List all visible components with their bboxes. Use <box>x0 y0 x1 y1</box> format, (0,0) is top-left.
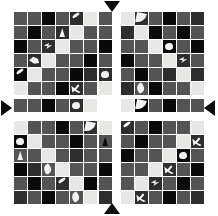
mosaic-cell <box>149 40 162 53</box>
mosaic-cell <box>163 121 176 134</box>
mosaic-cell <box>191 163 204 176</box>
mosaic-cell <box>177 163 190 176</box>
mosaic-cell <box>42 26 55 39</box>
fragment-petal-icon <box>136 82 146 94</box>
mosaic-cell <box>149 191 162 204</box>
mosaic-cell <box>99 135 112 148</box>
mosaic-cell <box>121 40 134 53</box>
mosaic-cell <box>99 163 112 176</box>
mosaic-cell <box>163 82 176 95</box>
fragment-fork-icon <box>164 165 174 174</box>
mosaic-cell <box>191 149 204 162</box>
mosaic-cell <box>84 40 97 53</box>
mosaic-cell <box>14 149 27 162</box>
mosaic-cell <box>28 26 41 39</box>
quadrant-top-right <box>121 12 204 95</box>
mosaic-cell <box>163 68 176 81</box>
mosaic-cell <box>191 26 204 39</box>
mosaic-cell <box>42 82 55 95</box>
mosaic-cell <box>84 191 97 204</box>
mosaic-cell <box>177 82 190 95</box>
bottom-marker-up-icon <box>104 203 120 214</box>
mosaic-cell <box>70 40 83 53</box>
mosaic-cell <box>135 121 148 134</box>
mosaic-cell <box>177 177 190 190</box>
mosaic-cell <box>70 82 83 95</box>
mosaic-cell <box>70 12 83 25</box>
mosaic-cell <box>191 99 204 112</box>
mosaic-cell <box>28 191 41 204</box>
mosaic-cell <box>191 177 204 190</box>
mosaic-cell <box>28 163 41 176</box>
mosaic-cell <box>14 191 27 204</box>
mosaic-cell <box>99 121 112 134</box>
mosaic-cell <box>70 163 83 176</box>
mosaic-cell <box>163 99 176 112</box>
mosaic-cell <box>191 82 204 95</box>
fragment-fork-icon <box>192 137 202 146</box>
mosaic-cell <box>121 82 134 95</box>
fragment-streak-icon <box>71 12 79 19</box>
mosaic-cell <box>149 135 162 148</box>
mosaic-cell <box>84 12 97 25</box>
mosaic-cell <box>28 82 41 95</box>
mosaic-cell <box>121 191 134 204</box>
mosaic-cell <box>177 121 190 134</box>
mosaic-cell <box>28 177 41 190</box>
mosaic-cell <box>14 99 27 112</box>
quadrant-bottom-right <box>121 121 204 204</box>
mosaic-cell <box>56 40 69 53</box>
fragment-arrowlet-icon <box>44 43 53 49</box>
mosaic-cell <box>149 163 162 176</box>
mosaic-cell <box>84 54 97 67</box>
mosaic-cell <box>56 149 69 162</box>
mosaic-cell <box>191 54 204 67</box>
fragment-streak-icon <box>15 68 23 75</box>
mosaic-cell <box>56 82 69 95</box>
fragment-arrowlet-icon <box>179 57 188 63</box>
mosaic-cell <box>28 40 41 53</box>
fragment-arrowlet-icon <box>151 180 160 186</box>
mosaic-cell <box>149 54 162 67</box>
mosaic-cell <box>28 135 41 148</box>
mosaic-cell <box>163 12 176 25</box>
mosaic-cell <box>99 26 112 39</box>
mosaic-cell <box>99 54 112 67</box>
mosaic-cell <box>42 54 55 67</box>
mosaic-cell <box>28 68 41 81</box>
mosaic-cell <box>42 191 55 204</box>
mosaic-cell <box>163 191 176 204</box>
fragment-crescent-icon <box>135 99 147 111</box>
mosaic-cell <box>56 121 69 134</box>
mosaic-cell <box>56 177 69 190</box>
mosaic-cell <box>42 68 55 81</box>
mosaic-cell <box>70 99 83 112</box>
fragment-wedge-icon <box>59 28 65 37</box>
mosaic-cell <box>121 163 134 176</box>
mosaic-cell <box>28 99 41 112</box>
mosaic-cell <box>14 68 27 81</box>
mosaic-cell <box>70 149 83 162</box>
mosaic-cell <box>149 99 162 112</box>
mosaic-cell <box>14 82 27 95</box>
mosaic-cell <box>121 54 134 67</box>
top-marker-down-icon <box>104 1 120 12</box>
mosaic-cell <box>135 68 148 81</box>
left-marker-right-icon <box>1 100 12 116</box>
mosaic-cell <box>177 12 190 25</box>
mosaic-cell <box>177 68 190 81</box>
mosaic-cell <box>84 135 97 148</box>
fragment-wedge-icon <box>17 151 23 160</box>
mosaic-cell <box>163 54 176 67</box>
mosaic-cell <box>70 177 83 190</box>
mosaic-cell <box>163 135 176 148</box>
mosaic-cell <box>84 149 97 162</box>
fragment-fork-icon <box>136 193 146 202</box>
mosaic-cell <box>42 99 55 112</box>
mosaic-cell <box>149 82 162 95</box>
mosaic-cell <box>99 177 112 190</box>
mosaic-cell <box>149 149 162 162</box>
mosaic-cell <box>177 99 190 112</box>
mosaic-cell <box>70 68 83 81</box>
mosaic-cell <box>99 82 112 95</box>
